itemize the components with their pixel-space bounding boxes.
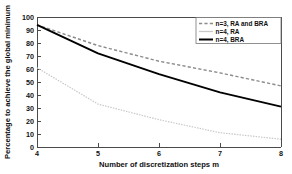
series-line-n4-ra xyxy=(37,68,281,140)
y-axis-title: Percentage to achieve the global minimum xyxy=(3,5,12,159)
y-tick-label-100: 100 xyxy=(22,13,34,22)
y-axis-ticks xyxy=(37,17,41,147)
chart-figure: 0 10 20 30 40 50 60 70 80 90 100 4 5 6 7… xyxy=(0,0,292,174)
x-tick-label-6: 6 xyxy=(157,149,161,158)
x-tick-label-7: 7 xyxy=(218,149,222,158)
legend-label-n4-bra: n=4, BRA xyxy=(216,36,245,44)
chart-legend: n=3, RA and BRA n=4, RA n=4, BRA xyxy=(196,18,281,44)
y-tick-label-30: 30 xyxy=(26,104,34,113)
x-tick-label-5: 5 xyxy=(96,149,100,158)
y-tick-label-60: 60 xyxy=(26,65,34,74)
x-axis-tick-labels: 4 5 6 7 8 xyxy=(35,149,283,158)
y-tick-label-40: 40 xyxy=(26,91,34,100)
line-chart: 0 10 20 30 40 50 60 70 80 90 100 4 5 6 7… xyxy=(0,0,292,174)
x-tick-label-4: 4 xyxy=(35,149,39,158)
y-tick-label-50: 50 xyxy=(26,78,34,87)
y-tick-label-90: 90 xyxy=(26,26,34,35)
legend-label-n3: n=3, RA and BRA xyxy=(216,20,269,28)
y-axis-tick-labels: 0 10 20 30 40 50 60 70 80 90 100 xyxy=(22,13,34,152)
y-tick-label-20: 20 xyxy=(26,117,34,126)
x-axis-ticks xyxy=(37,143,281,147)
y-tick-label-80: 80 xyxy=(26,39,34,48)
x-axis-title: Number of discretization steps m xyxy=(99,160,219,169)
x-tick-label-8: 8 xyxy=(279,149,283,158)
y-tick-label-10: 10 xyxy=(26,130,34,139)
y-tick-label-70: 70 xyxy=(26,52,34,61)
legend-label-n4-ra: n=4, RA xyxy=(216,28,240,36)
y-tick-label-0: 0 xyxy=(30,143,34,152)
